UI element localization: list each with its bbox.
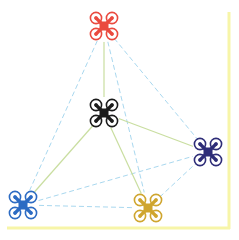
diagram-canvas (0, 0, 239, 240)
blue-drone-quadcopter-icon (7, 189, 39, 221)
frame-border (7, 12, 230, 229)
drones (7, 10, 224, 224)
navy-drone-quadcopter-icon (192, 136, 224, 168)
red-drone-quadcopter-icon (88, 10, 120, 42)
black-drone-quadcopter-icon (88, 97, 120, 129)
dashed-link-blue-gold (23, 205, 148, 208)
solid-link-black-blue (23, 113, 104, 205)
drone-network-diagram (0, 0, 239, 240)
gold-drone-quadcopter-icon (132, 192, 164, 224)
